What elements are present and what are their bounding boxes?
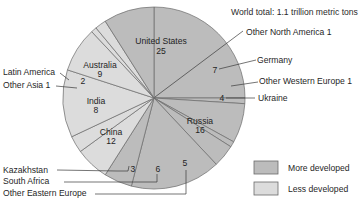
value-south-africa: 6	[156, 164, 161, 174]
label-other-western-europe: Other Western Europe 1	[259, 76, 352, 86]
pie-slice-united-states	[154, 7, 245, 98]
label-germany: Germany	[257, 55, 293, 65]
value-other-eastern-europe: 5	[183, 158, 188, 168]
value-kazakhstan: 3	[131, 164, 136, 174]
value-ukraine: 4	[220, 93, 225, 103]
value-australia: 9	[98, 69, 103, 79]
label-other-north-america: Other North America 1	[246, 27, 332, 37]
label-kazakhstan: Kazakhstan	[3, 165, 48, 175]
pie-chart: World total: 1.1 trillion metric tons Un…	[0, 0, 362, 204]
value-china: 12	[106, 136, 116, 146]
legend-swatch-more-developed	[254, 161, 278, 174]
legend-label-less-developed: Less developed	[288, 184, 348, 194]
label-other-eastern-europe: Other Eastern Europe	[3, 188, 87, 198]
chart-title: World total: 1.1 trillion metric tons	[231, 7, 358, 17]
legend: More developed Less developed	[254, 161, 350, 195]
value-latin-america: 2	[81, 76, 86, 86]
legend-label-more-developed: More developed	[288, 163, 350, 173]
label-latin-america: Latin America	[3, 67, 55, 77]
label-other-asia: Other Asia 1	[3, 80, 51, 90]
value-india: 8	[94, 105, 99, 115]
value-germany: 7	[213, 65, 218, 75]
value-russia: 16	[195, 125, 205, 135]
value-united-states: 25	[156, 46, 166, 56]
label-south-africa: South Africa	[3, 176, 50, 186]
label-united-states: United States	[135, 36, 187, 46]
legend-swatch-less-developed	[254, 182, 278, 195]
label-ukraine: Ukraine	[258, 93, 288, 103]
